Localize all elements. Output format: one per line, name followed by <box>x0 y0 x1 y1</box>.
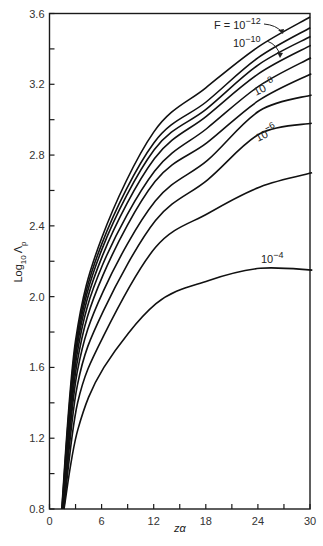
x-tick-label: 24 <box>252 515 264 527</box>
x-tick-label: 12 <box>148 515 160 527</box>
svg-text:10−4: 10−4 <box>261 250 284 265</box>
curve-label-f4: 10−4 <box>261 250 284 265</box>
svg-text:10−10: 10−10 <box>233 34 261 49</box>
y-tick-label: 0.8 <box>29 503 44 515</box>
x-tick-label: 0 <box>46 515 52 527</box>
svg-text:F = 10−12: F = 10−12 <box>214 16 261 31</box>
curve-label-f12: F = 10−12 <box>214 16 284 34</box>
chart: 0.81.21.62.02.42.83.23.6 0612182430 zα L… <box>0 0 323 546</box>
svg-text:Log10Λp: Log10Λp <box>12 241 28 283</box>
x-tick-label: 30 <box>304 515 316 527</box>
y-axis: 0.81.21.62.02.42.83.23.6 <box>29 8 54 516</box>
y-tick-label: 3.6 <box>29 8 44 20</box>
y-tick-label: 2.4 <box>29 220 44 232</box>
x-tick-label: 18 <box>200 515 212 527</box>
y-tick-label: 1.6 <box>29 361 44 373</box>
y-axis-title: Log10Λp <box>12 241 28 283</box>
svg-text:10−6: 10−6 <box>252 120 279 144</box>
y-tick-label: 2.8 <box>29 149 44 161</box>
x-tick-label: 6 <box>99 515 105 527</box>
curve-line <box>64 123 312 509</box>
curve-line <box>64 173 312 509</box>
y-tick-label: 1.2 <box>29 432 44 444</box>
curve-label-f6: 10−6 <box>252 120 279 144</box>
x-axis-title: zα <box>173 522 187 534</box>
y-tick-label: 2.0 <box>29 291 44 303</box>
y-tick-label: 3.2 <box>29 78 44 90</box>
curve-line <box>63 95 311 509</box>
curve-line <box>63 74 311 509</box>
curve-line <box>64 268 312 509</box>
